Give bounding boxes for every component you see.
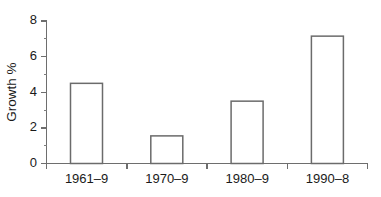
growth-bar-chart: 0 2 4 6 8 Growth % 1961–9 1970–9 1980 — [0, 0, 381, 197]
y-axis-title: Growth % — [4, 62, 19, 121]
y-axis-tick-labels: 0 2 4 6 8 — [30, 12, 37, 170]
x-tick-label-1970-9: 1970–9 — [145, 171, 188, 186]
y-tick-label-0: 0 — [30, 155, 37, 170]
x-tick-label-1990-8: 1990–8 — [306, 171, 349, 186]
y-tick-label-8: 8 — [30, 12, 37, 27]
y-tick-label-2: 2 — [30, 119, 37, 134]
y-tick-label-6: 6 — [30, 48, 37, 63]
bar-1980-9 — [231, 101, 263, 163]
x-tick-label-1980-9: 1980–9 — [226, 171, 269, 186]
bar-1970-9 — [151, 136, 183, 164]
chart-canvas: 0 2 4 6 8 Growth % 1961–9 1970–9 1980 — [0, 0, 381, 197]
x-axis-ticks — [47, 164, 368, 170]
bar-1990-8 — [311, 36, 343, 163]
x-axis-tick-labels: 1961–9 1970–9 1980–9 1990–8 — [65, 171, 349, 186]
x-tick-label-1961-9: 1961–9 — [65, 171, 108, 186]
y-axis-major-ticks — [41, 21, 47, 164]
bar-group — [71, 36, 344, 163]
bar-1961-9 — [71, 83, 103, 163]
y-tick-label-4: 4 — [30, 84, 37, 99]
